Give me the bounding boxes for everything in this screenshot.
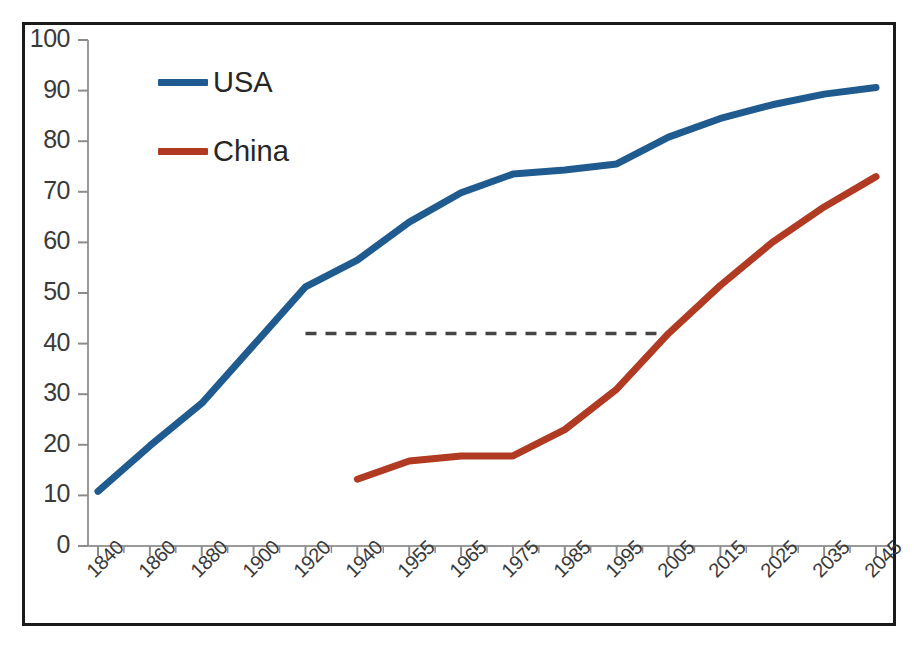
legend-swatch-usa: [158, 79, 208, 86]
y-axis-tick-label: 50: [14, 277, 70, 306]
y-axis-tick-label: 20: [14, 429, 70, 458]
y-axis-tick-label: 40: [14, 328, 70, 357]
legend-item-china: China: [158, 137, 289, 166]
legend-item-usa: USA: [158, 68, 273, 97]
y-axis-tick-label: 30: [14, 378, 70, 407]
chart-figure: 0102030405060708090100 18401860188019001…: [0, 0, 920, 648]
y-axis-tick-label: 0: [14, 530, 70, 559]
y-axis-tick-label: 10: [14, 479, 70, 508]
series-line-china: [357, 177, 876, 480]
y-axis-tick-label: 100: [14, 24, 70, 53]
legend-label-china: China: [210, 137, 289, 166]
legend-label-usa: USA: [210, 68, 273, 97]
legend-swatch-china: [158, 148, 208, 155]
y-axis-tick-label: 90: [14, 75, 70, 104]
y-axis-tick-label: 60: [14, 226, 70, 255]
y-axis-tick-label: 70: [14, 176, 70, 205]
y-axis-ticks: [78, 40, 88, 546]
y-axis-tick-label: 80: [14, 125, 70, 154]
